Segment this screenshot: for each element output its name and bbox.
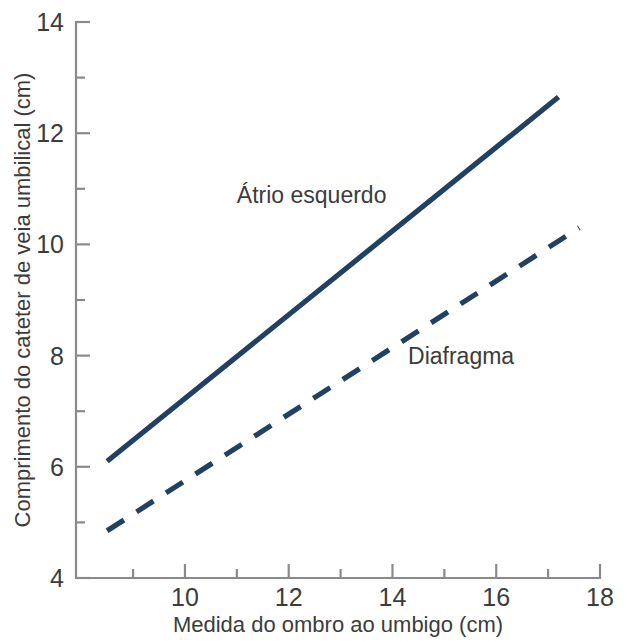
y-tick-label: 12 xyxy=(36,119,64,147)
series-group xyxy=(107,97,579,531)
x-tick-label: 18 xyxy=(586,583,614,611)
series-line-átrio-esquerdo xyxy=(107,97,558,461)
y-tick-label: 4 xyxy=(50,564,64,592)
x-tick-label: 14 xyxy=(379,583,407,611)
y-tick-label: 10 xyxy=(36,230,64,258)
axis-lines xyxy=(76,22,600,578)
y-axis-tick-labels: 468101214 xyxy=(36,8,64,592)
y-tick-label: 6 xyxy=(50,453,64,481)
y-tick-label: 8 xyxy=(50,342,64,370)
series-annotation-label: Diafragma xyxy=(408,343,514,369)
y-axis-title: Comprimento do cateter de veia umbilical… xyxy=(10,73,35,528)
y-tick-label: 14 xyxy=(36,8,64,36)
series-annotation-label: Átrio esquerdo xyxy=(237,182,387,208)
line-chart: 468101214 1012141618 Átrio esquerdoDiafr… xyxy=(0,0,627,643)
x-axis-title: Medida do ombro ao umbigo (cm) xyxy=(173,612,503,637)
x-axis-tick-labels: 1012141618 xyxy=(171,583,614,611)
series-annotations: Átrio esquerdoDiafragma xyxy=(237,182,515,369)
y-axis-ticks xyxy=(76,22,90,578)
x-tick-label: 10 xyxy=(171,583,199,611)
x-tick-label: 12 xyxy=(275,583,303,611)
axes-group xyxy=(76,22,600,578)
chart-container: 468101214 1012141618 Átrio esquerdoDiafr… xyxy=(0,0,627,643)
x-axis-ticks xyxy=(133,564,600,578)
x-tick-label: 16 xyxy=(482,583,510,611)
